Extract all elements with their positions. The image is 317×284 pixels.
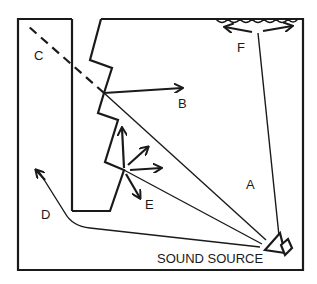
- label-c: C: [34, 48, 43, 63]
- diagram-svg: C B F A E D SOUND SOURCE: [0, 0, 317, 284]
- loudspeaker-icon: [265, 233, 292, 255]
- label-a: A: [246, 177, 255, 192]
- label-sound-source: SOUND SOURCE: [157, 251, 264, 266]
- arrow-e-upright: [128, 147, 148, 165]
- arrow-b: [104, 88, 182, 93]
- label-e: E: [145, 197, 154, 212]
- arrow-f-right: [263, 26, 292, 31]
- ray-to-b: [104, 93, 266, 240]
- sound-reflection-diagram: C B F A E D SOUND SOURCE: [0, 0, 317, 284]
- label-b: B: [178, 96, 187, 111]
- label-f: F: [237, 40, 245, 55]
- zigzag-wall: [72, 19, 124, 211]
- arrow-e-up: [122, 128, 124, 168]
- arrow-e-right: [130, 168, 161, 170]
- arrow-f-left: [225, 27, 252, 32]
- label-d: D: [41, 207, 50, 222]
- ray-a-to-ceiling: [258, 33, 279, 236]
- arrow-d-head: [36, 170, 45, 180]
